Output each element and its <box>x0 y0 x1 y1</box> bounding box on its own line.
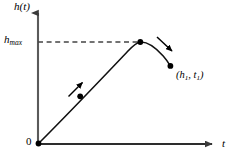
origin-label: 0 <box>26 136 32 147</box>
ascending-point-marker <box>77 93 83 99</box>
endpoint-label-sub-h: 1 <box>185 74 189 82</box>
endpoint-label-close: ) <box>200 69 204 80</box>
endpoint-label-open: (h <box>176 69 185 80</box>
trajectory-curve <box>39 42 171 144</box>
x-axis-label: t <box>222 138 225 149</box>
y-axis-label: h(t) <box>14 1 30 12</box>
height-time-graph-figure: h(t) t hmax 0 (h1, t1) <box>0 0 234 163</box>
hmax-label-base: h <box>4 33 10 45</box>
endpoint-label-sub-t: 1 <box>196 74 200 82</box>
peak-point-marker <box>137 39 143 45</box>
endpoint-coordinate-label: (h1, t1) <box>176 70 203 81</box>
endpoint-marker <box>168 63 174 69</box>
hmax-label-subscript: max <box>10 38 23 47</box>
hmax-label: hmax <box>4 34 22 45</box>
descending-direction-arrow <box>157 37 172 51</box>
origin-point-marker <box>36 141 42 147</box>
